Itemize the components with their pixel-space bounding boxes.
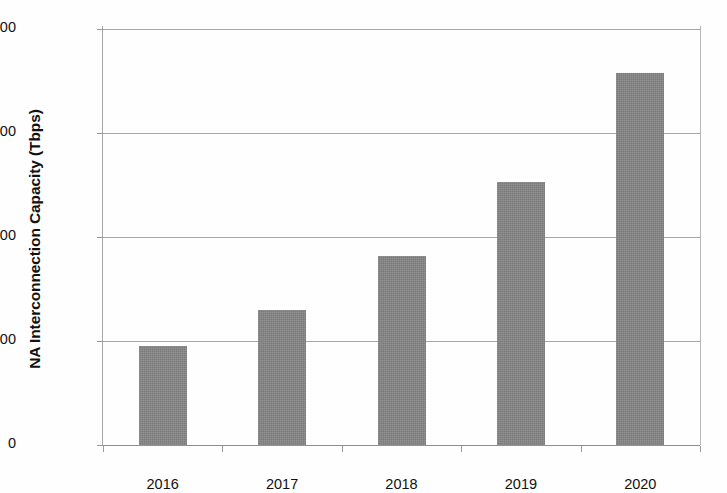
x-tick-mark — [103, 446, 104, 452]
plot-area: 20162017201820192020 — [103, 29, 700, 445]
x-tick-mark — [700, 446, 701, 452]
y-tick-label: 2000 — [0, 19, 16, 35]
x-tick-label: 2017 — [222, 476, 342, 492]
x-tick-label: 2019 — [461, 476, 581, 492]
bar — [616, 73, 664, 445]
x-tick-mark — [581, 446, 582, 452]
y-tick-label: 1000 — [0, 227, 16, 243]
y-tick-mark — [97, 29, 103, 30]
gridline — [103, 133, 700, 134]
bar — [258, 310, 306, 445]
bar — [497, 182, 545, 445]
x-tick-mark — [222, 446, 223, 452]
x-tick-label: 2016 — [103, 476, 223, 492]
x-tick-mark — [342, 446, 343, 452]
bar-chart: NA Interconnection Capacity (Tbps) 05001… — [0, 0, 727, 493]
gridline — [103, 29, 700, 30]
plot-right-border — [700, 26, 701, 445]
y-tick-mark — [97, 133, 103, 134]
bar — [139, 346, 187, 445]
y-tick-label: 1500 — [0, 123, 16, 139]
y-axis-title: NA Interconnection Capacity (Tbps) — [26, 29, 44, 449]
y-tick-label: 0 — [0, 435, 16, 451]
y-tick-label: 500 — [0, 331, 16, 347]
y-axis-line — [102, 26, 103, 445]
y-tick-mark — [97, 237, 103, 238]
x-tick-label: 2018 — [342, 476, 462, 492]
bar — [378, 256, 426, 445]
gridline — [103, 237, 700, 238]
x-tick-label: 2020 — [580, 476, 700, 492]
gridline — [103, 445, 700, 446]
y-tick-mark — [97, 341, 103, 342]
x-tick-mark — [461, 446, 462, 452]
